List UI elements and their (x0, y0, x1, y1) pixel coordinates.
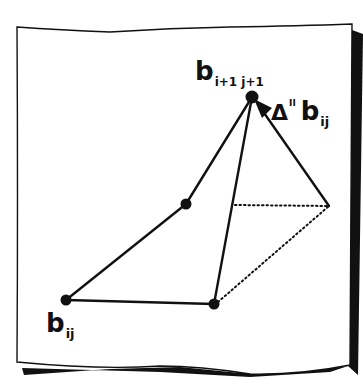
point-bottom-right (209, 299, 220, 310)
label-b-ij: bij (46, 310, 75, 336)
point-b-ij (61, 295, 72, 306)
label-delta-var: b (301, 96, 320, 126)
point-mid-left (181, 199, 192, 210)
label-delta-symbol: Δ (271, 100, 288, 125)
point-b-apex (246, 91, 259, 104)
label-b-apex-main: b (195, 56, 214, 86)
label-b-ij-main: b (46, 308, 65, 338)
label-b-ij-sub: ij (66, 326, 75, 341)
label-delta-sup: II (289, 98, 296, 108)
label-delta-sub: ij (320, 114, 329, 129)
label-b-apex-sub: i+1 j+1 (215, 75, 264, 89)
label-b-apex: bi+1 j+1 (195, 58, 264, 84)
label-delta-b: ΔIIbij (271, 98, 329, 124)
